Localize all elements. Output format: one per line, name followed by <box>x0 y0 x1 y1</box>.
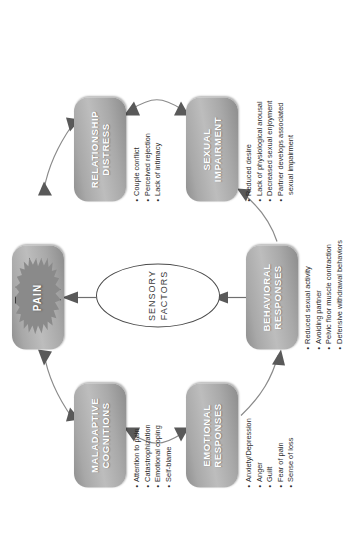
arrowhead-to-pain-center <box>62 291 78 303</box>
bullet-item: Defensive withdrawal behaviors <box>335 239 346 349</box>
bullet-item: Guilt <box>265 418 276 487</box>
node-behavioral-responses[interactable]: BEHAVIORAL RESPONSES <box>246 245 298 349</box>
bullets-maladaptive-cognitions: Attention to pain Catastrophization Emot… <box>132 424 174 487</box>
bullets-behavioral-responses: Reduced sexual activity Avoiding partner… <box>303 239 345 349</box>
node-sexual-impairment-label: SEXUAL IMPAIRMENT <box>201 100 223 198</box>
node-relationship-distress-label: RELATIONSHIP DISTRESS <box>89 100 111 198</box>
node-maladaptive-cognitions[interactable]: MALADAPTIVE COGNITIONS <box>74 383 126 487</box>
node-pain[interactable]: PAIN <box>12 245 64 349</box>
bullet-item: Self-blame <box>164 424 175 487</box>
arrowhead-to-relationship <box>124 101 140 115</box>
bullet-item: Reduced desire <box>244 100 255 201</box>
node-sensory-factors[interactable]: SENSORY FACTORS <box>96 263 220 327</box>
bullet-item: Fear of pain <box>276 418 287 487</box>
bullet-item: Lack of physiological arousal <box>255 100 266 201</box>
node-relationship-distress[interactable]: RELATIONSHIP DISTRESS <box>74 97 126 201</box>
node-emotional-responses-label: EMOTIONAL RESPONSES <box>201 386 223 484</box>
bullet-item: Avoiding partner <box>314 239 325 349</box>
bullet-item-continuation: sexual impairment <box>286 100 297 201</box>
diagram-canvas: PAIN SENSORY FACTORS MALADAPTIVE COGNITI… <box>0 0 348 545</box>
connector-sexual-relationship <box>131 99 182 109</box>
bullet-item: Attention to pain <box>132 424 143 487</box>
bullet-item: Perceived rejection <box>143 133 154 201</box>
connector-relationship-pain <box>44 125 72 189</box>
bullet-item: Sense of loss <box>286 418 297 487</box>
bullets-sexual-impairment: Reduced desire Lack of physiological aro… <box>244 100 297 201</box>
node-emotional-responses[interactable]: EMOTIONAL RESPONSES <box>186 383 238 487</box>
node-sexual-impairment[interactable]: SEXUAL IMPAIRMENT <box>186 97 238 201</box>
bullet-item: Reduced sexual activity <box>303 239 314 349</box>
bullets-emotional-responses: Anxiety/Depression Anger Guilt Fear of p… <box>244 418 297 487</box>
bullet-item: Catastrophization <box>143 424 154 487</box>
bullets-relationship-distress: Couple conflict Perceived rejection Lack… <box>132 133 164 201</box>
bullet-item: Couple conflict <box>132 133 143 201</box>
bullet-item: Partner develops associated <box>276 100 287 201</box>
arrowhead-to-behavioral <box>272 349 285 365</box>
node-behavioral-responses-label: BEHAVIORAL RESPONSES <box>261 248 283 346</box>
bullet-item: Decreased sexual enjoyment <box>265 100 276 201</box>
bullet-item: Anxiety/Depression <box>244 418 255 487</box>
connector-pain-maladaptive <box>44 353 72 417</box>
bullet-item: Lack of intimacy <box>153 133 164 201</box>
diagram-rotated-group: PAIN SENSORY FACTORS MALADAPTIVE COGNITI… <box>0 0 348 545</box>
bullet-item: Anger <box>255 418 266 487</box>
bullet-item: Pelvic floor muscle contraction <box>324 239 335 349</box>
bullet-item: Emotional coping <box>153 424 164 487</box>
arrowhead-to-pain-1 <box>38 349 52 365</box>
node-pain-label: PAIN <box>32 283 44 311</box>
node-maladaptive-cognitions-label: MALADAPTIVE COGNITIONS <box>89 386 111 484</box>
node-sensory-factors-label: SENSORY FACTORS <box>146 264 170 326</box>
